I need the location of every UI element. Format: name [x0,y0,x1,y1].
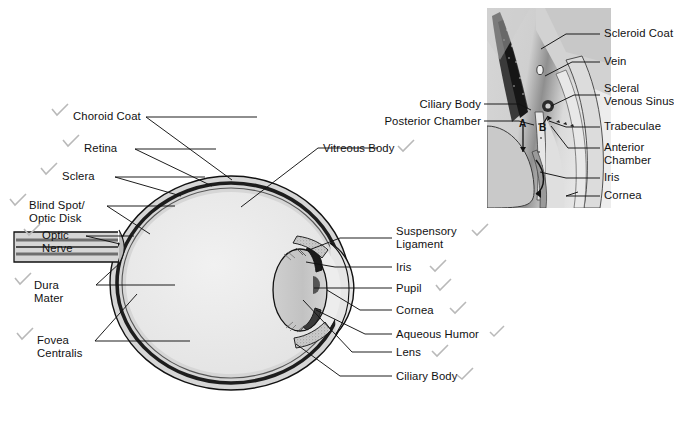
inset-marker-a: A [519,118,526,131]
inset-label-scleral-venous-sinus: Scleral Venous Sinus [604,82,674,107]
label-cornea: Cornea [396,304,434,317]
label-suspensory-ligament: Suspensory Ligament [396,225,457,250]
label-dura-mater: Dura Mater [34,279,63,304]
inset-label-posterior-chamber: Posterior Chamber [356,115,481,128]
label-lens: Lens [396,346,421,359]
inset-label-vein: Vein [604,55,626,68]
label-iris: Iris [396,261,411,274]
label-blind-spot-optic-disk: Blind Spot/ Optic Disk [29,199,85,224]
inset-label-scleroid-coat: Scleroid Coat [604,27,673,40]
inset-label-iris: Iris [604,171,619,184]
inset-label-cornea: Cornea [604,189,642,202]
label-aqueous-humor: Aqueous Humor [396,328,479,341]
label-vitreous-body: Vitreous Body [323,142,394,155]
label-pupil: Pupil [396,282,422,295]
inset-label-ciliary-body: Ciliary Body [384,98,481,111]
label-optic-nerve: Optic Nerve [42,229,73,254]
label-choroid-coat: Choroid Coat [73,110,141,123]
inset-label-anterior-chamber: Anterior Chamber [604,141,651,166]
inset-marker-b: B [539,122,546,135]
label-retina: Retina [84,142,117,155]
inset-label-trabeculae: Trabeculae [604,120,661,133]
label-fovea-centralis: Fovea Centralis [37,334,82,359]
label-sclera: Sclera [62,170,95,183]
label-ciliary-body: Ciliary Body [396,370,457,383]
